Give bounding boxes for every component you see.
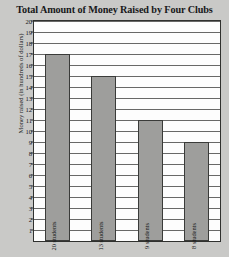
y-tick-label: 16 [25,62,32,69]
y-tick-label: 7 [29,161,32,168]
y-tick-label: 5 [29,183,32,190]
y-tick-label: 17 [25,51,32,58]
y-tick-label: 18 [25,40,32,47]
bar-category-label: 13 students [97,222,104,251]
y-tick-label: 4 [29,194,32,201]
gridline [34,21,220,22]
y-tick-label: 14 [25,84,32,91]
y-tick-label: 1 [29,227,32,234]
chart-title: Total Amount of Money Raised by Four Clu… [0,4,229,16]
y-tick-label: 20 [25,18,32,25]
gridline [34,32,220,33]
bar-chart: Total Amount of Money Raised by Four Clu… [0,0,229,257]
y-tick-label: 11 [26,117,32,124]
y-tick-label: 9 [29,139,32,146]
y-axis-title: Money raised (in hundreds of dollars) [17,9,24,159]
y-tick-label: 12 [25,106,32,113]
y-tick-label: 6 [29,172,32,179]
bar: 9 students [138,120,163,241]
gridline [34,43,220,44]
y-tick-label: 15 [25,73,32,80]
bar-category-label: 8 students [190,223,197,249]
y-tick-label: 13 [25,95,32,102]
bar: 20 students [45,54,70,241]
y-tick-label: 2 [29,216,32,223]
y-tick-label: 10 [25,128,32,135]
bar-category-label: 20 students [50,222,57,251]
y-tick-label: 19 [25,29,32,36]
bar: 13 students [91,76,116,241]
y-tick-label: 8 [29,150,32,157]
plot-area: 1234567891011121314151617181920 20 stude… [33,20,221,242]
y-tick-label: 3 [29,205,32,212]
bar-category-label: 9 students [143,223,150,249]
bar: 8 students [184,142,209,241]
